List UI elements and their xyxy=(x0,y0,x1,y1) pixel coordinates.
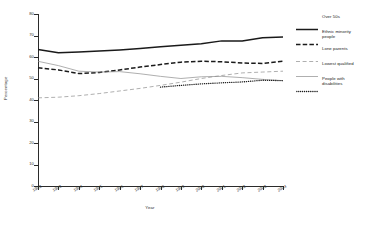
chart-legend: Over 50sEthnic minority peopleLone paren… xyxy=(296,14,378,92)
series-line xyxy=(38,61,283,73)
legend-label: Ethnic minority people xyxy=(322,29,378,39)
series-line xyxy=(38,37,283,53)
legend-label: Lowest qualified xyxy=(322,61,378,66)
legend-item[interactable]: Lowest qualified xyxy=(296,61,378,70)
legend-swatch-icon xyxy=(296,64,318,67)
legend-item[interactable]: Lone parents xyxy=(296,46,378,55)
legend-label: Lone parents xyxy=(322,46,378,51)
series-line xyxy=(38,71,283,98)
legend-item[interactable]: People with disabilities xyxy=(296,76,378,86)
chart-figure: Percentage Year 01020304050607080 199219… xyxy=(0,0,379,226)
legend-swatch-icon xyxy=(296,32,318,35)
legend-item[interactable]: Over 50s xyxy=(296,14,378,23)
legend-swatch-icon xyxy=(296,79,318,82)
legend-label: Over 50s xyxy=(322,14,378,19)
series-line xyxy=(161,80,284,87)
legend-label: People with disabilities xyxy=(322,76,378,86)
legend-swatch-icon xyxy=(296,17,318,20)
legend-item[interactable]: Ethnic minority people xyxy=(296,29,378,39)
legend-swatch-icon xyxy=(296,49,318,52)
